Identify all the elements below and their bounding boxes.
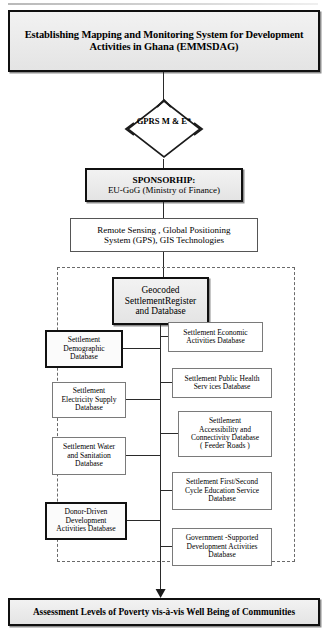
- title-line-1: Establishing Mapping and Monitoring Syst…: [23, 29, 306, 41]
- decision-label: GPRS M & E*: [110, 116, 218, 126]
- technologies-line-2: System (GPS), GIS Technologies: [95, 235, 232, 245]
- sponsorship-line-1: SPONSORHIP:: [106, 175, 222, 185]
- left-database-box-1: Settlement Demographic Database: [45, 330, 123, 368]
- arrowhead-down-icon: [151, 585, 171, 599]
- outcome-box: Assessment Levels of Poverty vis-à-vis W…: [8, 598, 320, 626]
- right-4-line-3: Database: [183, 495, 261, 503]
- right-2-line-2: Serv ices Database: [183, 383, 262, 391]
- connector-spine-to-right-3: [160, 433, 179, 434]
- connector-central-spine: [160, 325, 161, 562]
- left-2-line-3: Database: [59, 404, 118, 413]
- right-3-line-4: ( Feeder Roads ): [189, 442, 261, 450]
- flowchart-canvas: Establishing Mapping and Monitoring Syst…: [0, 0, 328, 638]
- connector-spine-to-left-3: [126, 455, 161, 456]
- register-line-3: and Database: [123, 306, 198, 317]
- geocoded-register-box: Geocoded SettlementRegister and Database: [112, 277, 209, 325]
- connector-spine-to-left-2: [126, 399, 161, 400]
- left-database-box-2: Settlement Electricity Supply Database: [52, 382, 126, 418]
- decision-node-wrapper: GPRS M & E*: [110, 96, 218, 162]
- connector-sponsor-to-technologies: [163, 202, 164, 218]
- outcome-text: Assessment Levels of Poverty vis-à-vis W…: [31, 607, 297, 617]
- page-top-rule: [8, 3, 318, 5]
- connector-decision-to-sponsor: [163, 159, 164, 168]
- connector-spine-to-left-1: [123, 348, 161, 349]
- left-4-line-3: Activities Database: [54, 525, 117, 534]
- right-1-line-2: Activities Database: [181, 337, 249, 345]
- decision-line-1: GPRS: [137, 116, 160, 126]
- technologies-line-1: Remote Sensing , Global Positioning: [95, 225, 232, 235]
- register-line-2: SettlementRegister: [123, 296, 198, 307]
- title-line-2: Activities in Ghana (EMMSDAG): [23, 41, 306, 53]
- right-5-line-3: Database: [184, 551, 261, 559]
- title-box: Establishing Mapping and Monitoring Syst…: [8, 10, 320, 72]
- left-3-line-3: Database: [61, 460, 117, 469]
- right-database-box-2: Settlement Public Health Serv ices Datab…: [172, 368, 272, 398]
- right-database-box-5: Government -Supported Development Activi…: [172, 528, 272, 566]
- register-line-1: Geocoded: [123, 285, 198, 296]
- right-database-box-3: Settlement Accessibility and Connectivit…: [178, 411, 272, 457]
- sponsorship-line-2: EU-GoG (Ministry of Finance): [106, 185, 222, 195]
- left-database-box-3: Settlement Water and Sanitation Database: [52, 437, 126, 475]
- right-database-box-1: Settlement Economic Activities Database: [168, 322, 263, 352]
- connector-spine-to-left-4: [127, 520, 161, 521]
- decision-line-2: M & E*: [162, 116, 192, 126]
- left-1-line-3: Database: [61, 353, 106, 362]
- decision-diamond-icon: [110, 96, 218, 162]
- technologies-box: Remote Sensing , Global Positioning Syst…: [70, 218, 258, 252]
- sponsorship-box: SPONSORHIP: EU-GoG (Ministry of Finance): [85, 168, 243, 202]
- left-database-box-4: Donor-Driven Development Activities Data…: [45, 502, 127, 540]
- right-database-box-4: Settlement First/Second Cycle Education …: [172, 472, 272, 510]
